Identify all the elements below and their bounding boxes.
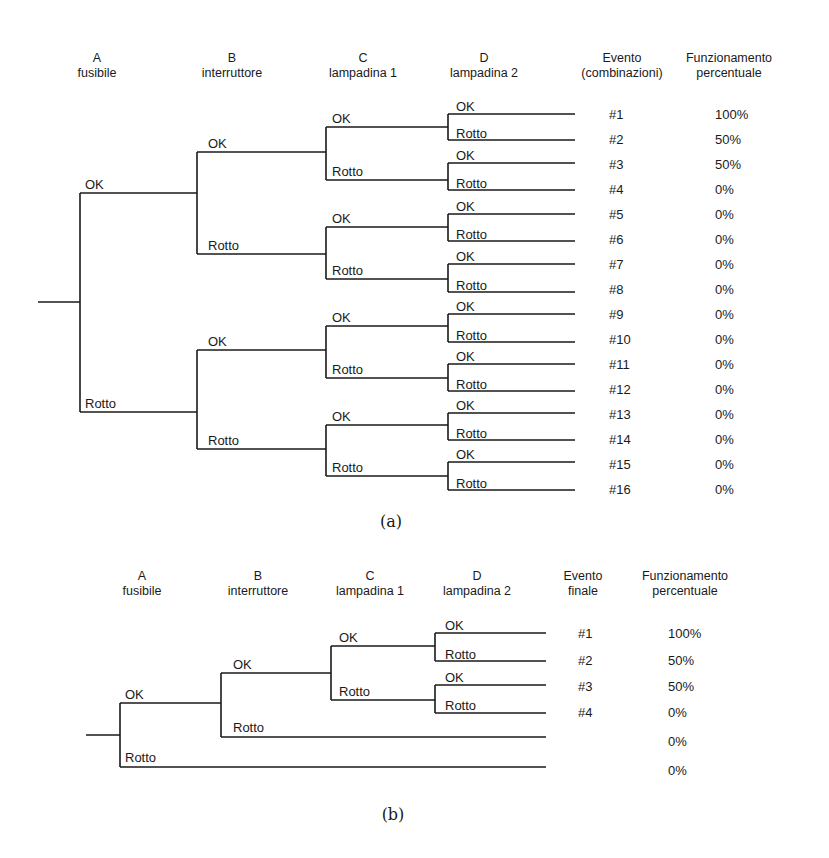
branch-label-a-ok: OK: [85, 177, 104, 192]
event-percent: 0%: [715, 282, 734, 297]
branch-label-d-rotto: Rotto: [456, 476, 487, 491]
branch-label-c-rotto: Rotto: [339, 684, 370, 699]
header-b-interruttore: B interruttore: [228, 569, 288, 598]
branch-label-d-rotto: Rotto: [456, 278, 487, 293]
event-percent: 0%: [715, 232, 734, 247]
event-id: #8: [609, 282, 623, 297]
header-letter: A: [93, 51, 102, 65]
branch-label-d-ok: OK: [456, 447, 475, 462]
event-id: #9: [609, 307, 623, 322]
event-percent: 0%: [715, 457, 734, 472]
header-letter: C: [365, 569, 374, 583]
header-line2: (combinazioni): [581, 66, 662, 80]
branch-label-c-ok: OK: [332, 111, 351, 126]
header-component: lampadina 1: [329, 66, 397, 80]
header-letter: D: [479, 51, 488, 65]
header-evento: Evento (combinazioni): [581, 51, 662, 80]
branch-label-b-ok: OK: [208, 334, 227, 349]
branch-label-d-ok: OK: [445, 670, 464, 685]
header-line1: Evento: [564, 569, 603, 583]
branch-label-b-ok: OK: [233, 657, 252, 672]
tree-lines-a: [38, 114, 575, 490]
branch-label-c-rotto: Rotto: [332, 263, 363, 278]
header-line1: Funzionamento: [642, 569, 728, 583]
branch-label-d-ok: OK: [456, 148, 475, 163]
branch-label-d-rotto: Rotto: [445, 698, 476, 713]
outcomes-b: #1 100% #2 50% #3 50% #4 0% 0% 0%: [578, 626, 702, 778]
header-letter: D: [472, 569, 481, 583]
caption-b: (b): [382, 805, 405, 824]
event-percent: 50%: [715, 132, 741, 147]
event-id: #12: [609, 382, 631, 397]
header-component: fusibile: [123, 584, 162, 598]
event-percent: 0%: [715, 382, 734, 397]
figure-b: A fusibile B interruttore C lampadina 1 …: [86, 569, 728, 824]
header-funzionamento: Funzionamento percentuale: [686, 51, 772, 80]
branch-label-a-rotto: Rotto: [125, 750, 156, 765]
header-line2: finale: [568, 584, 598, 598]
event-percent: 0%: [715, 182, 734, 197]
branch-label-d-rotto: Rotto: [456, 328, 487, 343]
branch-label-d-rotto: Rotto: [456, 176, 487, 191]
branch-label-d-ok: OK: [456, 249, 475, 264]
header-a-fusibile: A fusibile: [78, 51, 117, 80]
event-percent: 0%: [715, 357, 734, 372]
branch-label-c-rotto: Rotto: [332, 362, 363, 377]
branch-label-c-ok: OK: [332, 409, 351, 424]
event-id: #15: [609, 457, 631, 472]
header-letter: A: [138, 569, 147, 583]
header-c-lampadina-1: C lampadina 1: [329, 51, 397, 80]
branch-label-a-ok: OK: [125, 687, 144, 702]
event-id: #13: [609, 407, 631, 422]
header-component: interruttore: [202, 66, 262, 80]
event-id: #11: [609, 357, 630, 372]
branch-label-b-ok: OK: [208, 136, 227, 151]
figure-a: A fusibile B interruttore C lampadina 1 …: [38, 51, 772, 531]
header-letter: C: [358, 51, 367, 65]
header-a-fusibile: A fusibile: [123, 569, 162, 598]
branch-label-d-rotto: Rotto: [445, 647, 476, 662]
branch-label-d-rotto: Rotto: [456, 227, 487, 242]
header-d-lampadina-2: D lampadina 2: [450, 51, 518, 80]
branch-label-b-rotto: Rotto: [233, 720, 264, 735]
header-evento-finale: Evento finale: [564, 569, 603, 598]
branch-label-b-rotto: Rotto: [208, 433, 239, 448]
event-id: #2: [609, 132, 623, 147]
tree-lines-b: [86, 633, 546, 767]
header-d-lampadina-2: D lampadina 2: [443, 569, 511, 598]
event-id: #4: [609, 182, 623, 197]
branch-label-c-ok: OK: [332, 211, 351, 226]
event-percent: 50%: [715, 157, 741, 172]
event-id: #2: [578, 653, 592, 668]
event-tree-figure: A fusibile B interruttore C lampadina 1 …: [0, 0, 829, 858]
header-component: lampadina 2: [450, 66, 518, 80]
branch-label-d-ok: OK: [445, 618, 464, 633]
header-component: lampadina 1: [336, 584, 404, 598]
outcomes-a: #1 100% #2 50% #3 50% #4 0% #5 0% #6 0% …: [609, 107, 749, 497]
event-percent: 0%: [668, 705, 687, 720]
event-percent: 0%: [715, 482, 734, 497]
event-percent: 100%: [715, 107, 749, 122]
branch-label-d-ok: OK: [456, 99, 475, 114]
event-percent: 0%: [715, 432, 734, 447]
branch-label-d-ok: OK: [456, 199, 475, 214]
branch-label-d-rotto: Rotto: [456, 126, 487, 141]
event-id: #3: [609, 157, 623, 172]
event-percent: 0%: [715, 407, 734, 422]
event-id: #10: [609, 332, 631, 347]
header-funzionamento: Funzionamento percentuale: [642, 569, 728, 598]
header-component: interruttore: [228, 584, 288, 598]
event-percent: 0%: [715, 257, 734, 272]
event-percent: 50%: [668, 679, 694, 694]
event-id: #4: [578, 705, 592, 720]
branch-label-b-rotto: Rotto: [208, 238, 239, 253]
event-id: #5: [609, 207, 623, 222]
event-id: #1: [578, 626, 592, 641]
event-percent: 50%: [668, 653, 694, 668]
event-id: #6: [609, 232, 623, 247]
branch-label-c-ok: OK: [339, 630, 358, 645]
header-line2: percentuale: [696, 66, 761, 80]
branch-label-c-rotto: Rotto: [332, 460, 363, 475]
branch-label-c-ok: OK: [332, 310, 351, 325]
header-line1: Funzionamento: [686, 51, 772, 65]
